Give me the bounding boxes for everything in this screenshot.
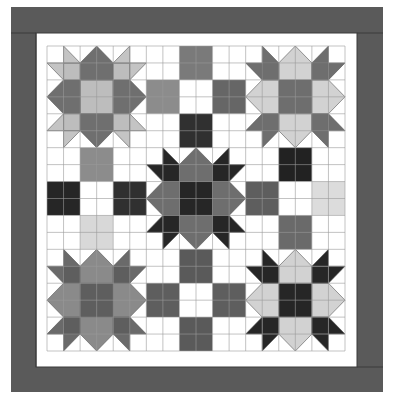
star-corner-square — [262, 317, 279, 334]
quilt — [0, 0, 393, 400]
star-corner-square — [312, 114, 329, 131]
star-corner-square — [312, 63, 329, 80]
star-corner-square — [213, 165, 230, 182]
star-corner-square — [262, 114, 279, 131]
star-corner-square — [64, 114, 81, 131]
star-corner-square — [213, 215, 230, 232]
star-corner-square — [163, 165, 180, 182]
star-corner-square — [113, 63, 130, 80]
star-corner-square — [262, 266, 279, 283]
star-corner-square — [113, 114, 130, 131]
star-corner-square — [113, 317, 130, 334]
star-corner-square — [312, 266, 329, 283]
star-corner-square — [64, 63, 81, 80]
star-corner-square — [312, 317, 329, 334]
star-corner-square — [64, 266, 81, 283]
star-corner-square — [113, 266, 130, 283]
star-corner-square — [64, 317, 81, 334]
star-corner-square — [262, 63, 279, 80]
star-corner-square — [163, 215, 180, 232]
